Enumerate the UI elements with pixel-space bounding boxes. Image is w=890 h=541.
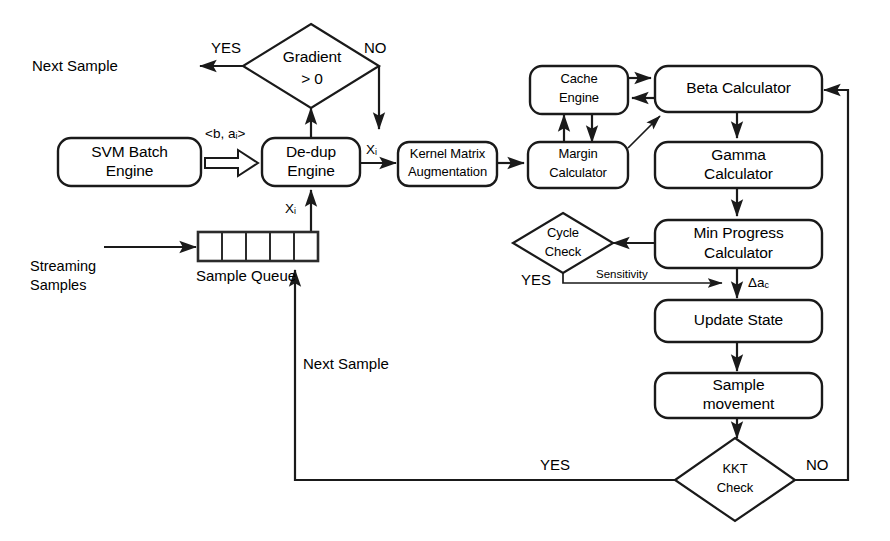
beta-calculator-label: Beta Calculator — [686, 79, 790, 96]
sensitivity-label: Sensitivity — [596, 268, 648, 280]
cycle-check-label-line1: Cycle — [547, 225, 579, 240]
node-min-progress-calculator[interactable]: Min Progress Calculator — [655, 220, 822, 268]
dedup-engine-label-line1: De-dup — [286, 143, 336, 160]
gradient-check-label-line1: Gradient — [283, 48, 342, 65]
min-progress-calculator-label-line1: Min Progress — [693, 224, 783, 241]
dedup-engine-label-line2: Engine — [287, 162, 335, 179]
margin-calculator-label-line2: Calculator — [549, 165, 607, 180]
sample-movement-label-line1: Sample — [713, 376, 765, 393]
cycle-check-label-line2: Check — [545, 244, 582, 259]
svm-batch-engine-label-line1: SVM Batch — [91, 143, 168, 160]
kkt-check-label-line2: Check — [717, 480, 754, 495]
kernel-matrix-label-line1: Kernel Matrix — [410, 146, 486, 161]
node-gamma-calculator[interactable]: Gamma Calculator — [655, 142, 822, 188]
node-margin-calculator[interactable]: Margin Calculator — [528, 142, 628, 188]
node-kernel-matrix-augmentation[interactable]: Kernel Matrix Augmentation — [398, 142, 497, 186]
cache-engine-label-line1: Cache — [560, 71, 597, 86]
margin-calculator-label-line1: Margin — [558, 146, 597, 161]
next-sample-loop-label: Next Sample — [303, 355, 389, 372]
cycle-check-diamond[interactable] — [513, 213, 613, 273]
next-sample-top-label: Next Sample — [32, 57, 118, 74]
svm-batch-engine-label-line2: Engine — [106, 162, 154, 179]
min-progress-calculator-label-line2: Calculator — [704, 244, 773, 261]
node-dedup-engine[interactable]: De-dup Engine — [262, 138, 360, 186]
kernel-matrix-label-line2: Augmentation — [408, 164, 487, 179]
gradient-yes-label: YES — [211, 39, 241, 56]
cache-engine-label-line2: Engine — [559, 90, 599, 105]
node-beta-calculator[interactable]: Beta Calculator — [655, 66, 822, 112]
node-cycle-check[interactable]: Cycle Check — [513, 213, 613, 273]
flowchart-canvas: SVM Batch Engine De-dup Engine Kernel Ma… — [0, 0, 890, 541]
gradient-check-label-line2: > 0 — [301, 70, 323, 87]
node-update-state[interactable]: Update State — [655, 300, 822, 342]
edge-margin-to-beta — [628, 116, 660, 148]
cycle-yes-label: YES — [521, 271, 551, 288]
gamma-calculator-label-line2: Calculator — [704, 165, 773, 182]
gradient-check-diamond[interactable] — [243, 24, 379, 108]
update-state-label: Update State — [694, 311, 783, 328]
kkt-no-label: NO — [806, 456, 829, 473]
delta-alpha-c-label: Δac — [748, 275, 770, 290]
sample-queue-label: Sample Queue — [196, 267, 296, 284]
node-svm-batch-engine[interactable]: SVM Batch Engine — [58, 138, 201, 186]
block-arrow-svm-to-dedup — [205, 150, 258, 176]
kkt-yes-label: YES — [540, 456, 570, 473]
streaming-samples-label-line2: Samples — [30, 277, 86, 293]
node-cache-engine[interactable]: Cache Engine — [530, 66, 628, 114]
sample-movement-label-line2: movement — [703, 395, 775, 412]
node-sample-movement[interactable]: Sample movement — [655, 373, 822, 418]
node-kkt-check[interactable]: KKT Check — [675, 438, 795, 521]
sample-queue-box[interactable] — [198, 232, 318, 261]
gradient-no-label: NO — [364, 39, 387, 56]
node-gradient-check[interactable]: Gradient > 0 — [243, 24, 379, 108]
flowchart-svg: SVM Batch Engine De-dup Engine Kernel Ma… — [0, 0, 890, 541]
gamma-calculator-label-line1: Gamma — [711, 146, 766, 163]
kkt-check-label-line1: KKT — [723, 461, 748, 476]
xi-dedup-to-kernel-label: Xi — [366, 142, 377, 157]
b-alpha-tuple-label: <b, ai> — [205, 126, 245, 141]
xi-queue-to-dedup-label: Xi — [285, 201, 296, 216]
node-sample-queue[interactable]: Sample Queue — [196, 232, 318, 284]
edge-kkt-yes-to-queue — [295, 270, 675, 480]
streaming-samples-label-line1: Streaming — [30, 258, 96, 274]
